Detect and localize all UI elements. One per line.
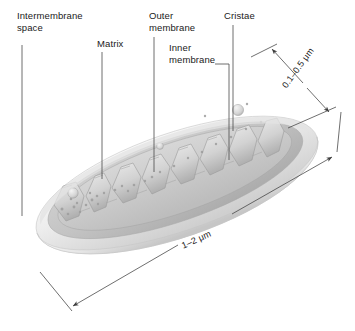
label-intermembrane-space: Intermembrane space	[17, 10, 83, 33]
label-outer-membrane: Outer membrane	[149, 10, 195, 33]
label-cristae: Cristae	[224, 10, 255, 22]
length-arrow-left	[73, 245, 178, 306]
thickness-arrow-lower	[307, 88, 329, 112]
length-extension-right	[337, 112, 341, 152]
organelle-body	[20, 88, 334, 283]
thickness-extension-bottom	[288, 107, 336, 128]
mitochondrion-figure: Intermembrane space Matrix Outer membran…	[0, 0, 355, 331]
label-inner-membrane: Inner membrane	[169, 42, 215, 65]
length-extension-left	[40, 272, 72, 311]
dimension-thickness	[251, 44, 336, 128]
label-matrix: Matrix	[97, 38, 123, 50]
